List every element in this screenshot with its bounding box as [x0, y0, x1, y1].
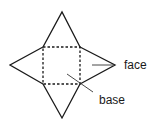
face-top — [43, 12, 80, 47]
pyramid-net-diagram: face base — [0, 0, 159, 124]
face-label: face — [124, 58, 147, 72]
base-leader-line — [67, 74, 93, 92]
base-square — [43, 47, 80, 84]
face-bottom — [43, 84, 80, 118]
base-label: base — [99, 93, 125, 107]
face-right — [80, 47, 115, 84]
face-left — [10, 47, 43, 84]
